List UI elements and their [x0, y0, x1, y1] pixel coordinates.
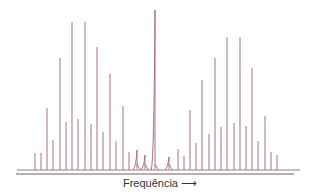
spectrum-peaks [35, 10, 277, 170]
arrow-right-icon: ⟶ [181, 177, 197, 190]
spectrum-peak [165, 157, 173, 170]
spectrum-peak [151, 10, 159, 170]
spectrum-peak [141, 155, 149, 170]
spectrum-chart [0, 0, 320, 196]
x-axis-label-text: Frequência [123, 177, 178, 189]
spectrum-peak [133, 150, 141, 170]
x-axis-label: Frequência ⟶ [0, 177, 320, 190]
